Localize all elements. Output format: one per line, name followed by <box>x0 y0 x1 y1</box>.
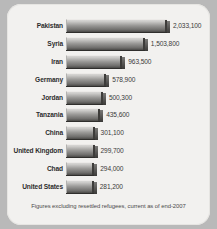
bar-track: 299,700 <box>66 142 210 160</box>
bar-chart: Pakistan2,033,100Syria1,503,800Iran963,5… <box>7 17 210 195</box>
category-label: Syria <box>7 40 66 47</box>
bar <box>66 162 94 175</box>
bar <box>66 73 106 86</box>
bar-track: 500,300 <box>66 88 210 106</box>
bar-track: 435,600 <box>66 106 210 124</box>
value-label: 500,300 <box>109 94 132 101</box>
chart-row: Germany578,900 <box>7 70 210 88</box>
bar <box>66 180 94 193</box>
category-label: Tanzania <box>7 111 66 118</box>
bar-end-cap <box>100 110 103 122</box>
bar-end-cap <box>122 57 125 69</box>
bar-track: 2,033,100 <box>66 17 210 35</box>
chart-row: Iran963,500 <box>7 53 210 71</box>
chart-row: Syria1,503,800 <box>7 35 210 53</box>
category-label: Iran <box>7 58 66 65</box>
chart-row: United States281,200 <box>7 177 210 195</box>
bar-end-cap <box>95 128 98 140</box>
value-label: 578,900 <box>112 76 135 83</box>
bar-end-cap <box>106 75 109 87</box>
bar <box>66 55 122 68</box>
category-label: Pakistan <box>7 22 66 29</box>
value-label: 963,500 <box>128 58 151 65</box>
category-label: United Kingdom <box>7 147 66 154</box>
chart-panel: Pakistan2,033,100Syria1,503,800Iran963,5… <box>7 4 210 225</box>
bar-end-cap <box>145 39 148 51</box>
bar <box>66 19 167 32</box>
bar-track: 963,500 <box>66 53 210 71</box>
bar <box>66 144 95 157</box>
bar <box>66 37 145 50</box>
chart-row: Tanzania435,600 <box>7 106 210 124</box>
value-label: 299,700 <box>101 147 124 154</box>
category-label: Chad <box>7 165 66 172</box>
bar-end-cap <box>167 21 170 33</box>
value-label: 281,200 <box>100 183 123 190</box>
bar <box>66 91 103 104</box>
bar-track: 294,000 <box>66 159 210 177</box>
category-label: China <box>7 129 66 136</box>
chart-row: China301,100 <box>7 124 210 142</box>
bar-track: 301,100 <box>66 124 210 142</box>
bar <box>66 108 100 121</box>
bar-track: 578,900 <box>66 70 210 88</box>
value-label: 301,100 <box>101 129 124 136</box>
category-label: Jordan <box>7 94 66 101</box>
chart-row: Pakistan2,033,100 <box>7 17 210 35</box>
category-label: United States <box>7 183 66 190</box>
value-label: 2,033,100 <box>173 22 201 29</box>
bar-end-cap <box>103 93 106 105</box>
value-label: 1,503,800 <box>151 40 179 47</box>
bar-end-cap <box>94 182 97 194</box>
chart-row: United Kingdom299,700 <box>7 142 210 160</box>
value-label: 435,600 <box>106 111 129 118</box>
bar-track: 1,503,800 <box>66 35 210 53</box>
bar <box>66 126 95 139</box>
bar-end-cap <box>95 146 98 158</box>
chart-footnote: Figures excluding resettled refugees, cu… <box>7 203 210 209</box>
bar-end-cap <box>94 164 97 176</box>
chart-row: Jordan500,300 <box>7 88 210 106</box>
value-label: 294,000 <box>100 165 123 172</box>
category-label: Germany <box>7 76 66 83</box>
bar-track: 281,200 <box>66 177 210 195</box>
chart-row: Chad294,000 <box>7 159 210 177</box>
